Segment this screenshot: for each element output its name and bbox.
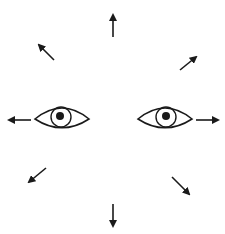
arrow-down-left-icon: [29, 168, 46, 182]
arrows-group: [9, 15, 218, 226]
arrow-down-right-icon: [172, 177, 189, 194]
left-eye: [35, 107, 89, 128]
arrow-up-left-icon: [39, 45, 54, 60]
right-eye: [138, 107, 192, 128]
pupil: [56, 112, 64, 120]
eyes-group: [35, 107, 192, 128]
arrow-up-right-icon: [180, 57, 196, 70]
pupil: [162, 112, 170, 120]
eye-movement-diagram: [0, 0, 225, 234]
